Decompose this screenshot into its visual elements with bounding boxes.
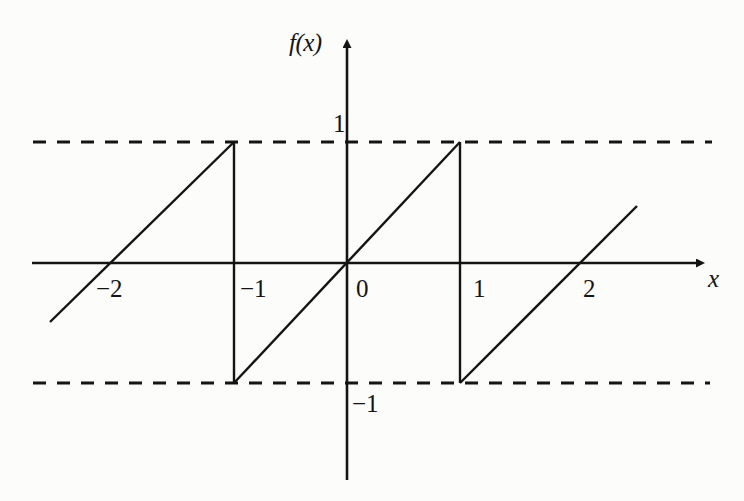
x-tick-label-minus-1: −1 — [240, 276, 267, 301]
x-tick-label-two: 2 — [583, 276, 596, 301]
y-axis-label: f(x) — [289, 30, 322, 55]
sawtooth-figure: f(x) x 1 −1 −2 −1 0 1 2 — [0, 0, 744, 501]
x-tick-label-one: 1 — [473, 276, 486, 301]
x-axis-label: x — [708, 266, 719, 291]
x-tick-label-minus-2: −2 — [96, 276, 123, 301]
plot-canvas — [0, 0, 744, 501]
y-tick-label-1: 1 — [333, 111, 346, 136]
sawtooth-ramp-left — [50, 142, 234, 322]
x-tick-label-zero: 0 — [356, 276, 369, 301]
y-tick-label-minus-1: −1 — [352, 391, 379, 416]
sawtooth-ramp-right — [460, 206, 637, 383]
